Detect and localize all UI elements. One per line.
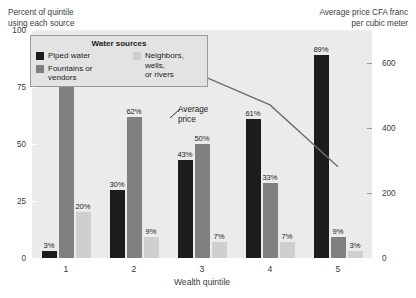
bar [195,144,210,258]
legend-item-neighbors-wells-or-rivers: Neighbors, wells, or rivers [133,51,202,80]
chart-figure: Percent of quintile using each source Av… [0,0,416,298]
average-price-annotation: Average price [178,105,208,125]
bar [280,242,295,258]
bar-value-label: 33% [262,173,277,182]
x-tick-label: 2 [132,264,137,274]
y-tick-label-left: 25 [2,197,26,206]
legend-item-piped-water: Piped water [36,51,127,61]
bar-value-label: 89% [313,45,328,54]
bar [246,119,261,258]
y-tick-mark-left [32,201,37,202]
legend-swatch-piped-water [36,52,44,60]
y-tick-label-left: 0 [2,254,26,263]
y-tick-mark-right [367,128,372,129]
bar-value-label: 62% [126,107,141,116]
y-tick-mark-right [367,63,372,64]
bar [144,237,159,258]
legend-item-fountains-or-vendors: Fountains or vendors [36,64,127,83]
bar [76,212,91,258]
bar-value-label: 7% [214,232,225,241]
bar-value-label: 9% [146,227,157,236]
bar-value-label: 3% [44,241,55,250]
y-tick-label-left: 50 [2,140,26,149]
legend: Water sources Piped water Fountains or v… [30,35,208,87]
bar [110,190,125,258]
bar-value-label: 50% [194,134,209,143]
bar-value-label: 20% [75,202,90,211]
x-tick-label: 3 [200,264,205,274]
bar [263,183,278,258]
bar-value-label: 30% [109,180,124,189]
legend-swatch-fountains-or-vendors [36,65,44,73]
y-tick-mark-left [32,30,37,31]
bar [59,82,74,258]
bar-value-label: 7% [282,232,293,241]
x-tick-label: 4 [268,264,273,274]
y-tick-mark-left [32,144,37,145]
y-tick-mark-right [367,193,372,194]
bar [178,160,193,258]
y-tick-label-right: 400 [382,123,396,132]
right-axis-caption: Average price CFA franc per cubic meter [319,8,408,29]
bar-value-label: 9% [333,227,344,236]
bar [331,237,346,258]
legend-label-neighbors-wells-or-rivers: Neighbors, wells, or rivers [145,51,202,80]
y-tick-label-left: 75 [2,83,26,92]
y-tick-label-right: 0 [382,254,387,263]
bar-value-label: 43% [177,150,192,159]
bar [212,242,227,258]
legend-label-fountains-or-vendors: Fountains or vendors [48,64,92,83]
x-tick-label: 5 [336,264,341,274]
bar [127,117,142,258]
legend-title: Water sources [36,39,202,48]
bar [42,251,57,258]
bar-value-label: 3% [350,241,361,250]
bar [314,55,329,258]
y-tick-label-right: 200 [382,188,396,197]
y-tick-mark-left [32,87,37,88]
x-axis-title: Wealth quintile [174,277,230,287]
legend-swatch-neighbors-wells-or-rivers [133,52,141,60]
y-tick-label-left: 100 [2,26,26,35]
legend-label-piped-water: Piped water [48,51,90,61]
bar [348,251,363,258]
bar-value-label: 61% [245,109,260,118]
x-tick-label: 1 [64,264,69,274]
y-tick-label-right: 600 [382,58,396,67]
